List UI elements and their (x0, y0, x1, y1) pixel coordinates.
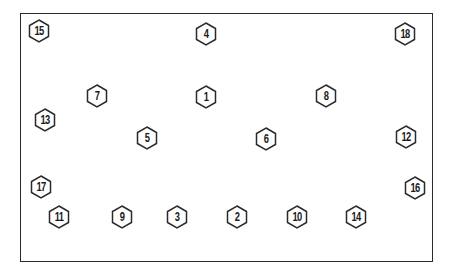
bolt-7: 7 (86, 84, 108, 108)
bolt-14: 14 (345, 205, 367, 229)
bolt-1: 1 (195, 85, 217, 109)
bolt-number: 1 (197, 85, 214, 109)
bolt-number: 9 (113, 205, 130, 229)
bolt-16: 16 (404, 176, 426, 200)
bolt-9: 9 (111, 205, 133, 229)
bolt-number: 17 (32, 175, 49, 199)
bolt-number: 12 (397, 125, 414, 149)
bolt-17: 17 (30, 175, 52, 199)
bolt-number: 18 (396, 22, 413, 46)
bolt-number: 8 (317, 84, 334, 108)
bolt-number: 4 (197, 22, 214, 46)
bolt-number: 10 (288, 205, 305, 229)
bolt-12: 12 (395, 125, 417, 149)
bolt-number: 13 (36, 108, 53, 132)
bolt-10: 10 (286, 205, 308, 229)
bolt-number: 11 (50, 205, 67, 229)
bolt-4: 4 (195, 22, 217, 46)
bolt-13: 13 (34, 108, 56, 132)
bolt-3: 3 (166, 205, 188, 229)
bolt-number: 3 (168, 205, 185, 229)
bolt-8: 8 (315, 84, 337, 108)
bolt-2: 2 (226, 205, 248, 229)
bolt-18: 18 (394, 22, 416, 46)
bolt-number: 7 (88, 84, 105, 108)
bolt-number: 15 (30, 19, 47, 43)
bolt-15: 15 (28, 19, 50, 43)
bolt-number: 6 (257, 127, 274, 151)
bolt-number: 16 (406, 176, 423, 200)
bolt-11: 11 (48, 205, 70, 229)
bolt-number: 2 (228, 205, 245, 229)
bolt-number: 14 (347, 205, 364, 229)
bolt-5: 5 (136, 126, 158, 150)
bolt-6: 6 (255, 127, 277, 151)
bolt-number: 5 (138, 126, 155, 150)
